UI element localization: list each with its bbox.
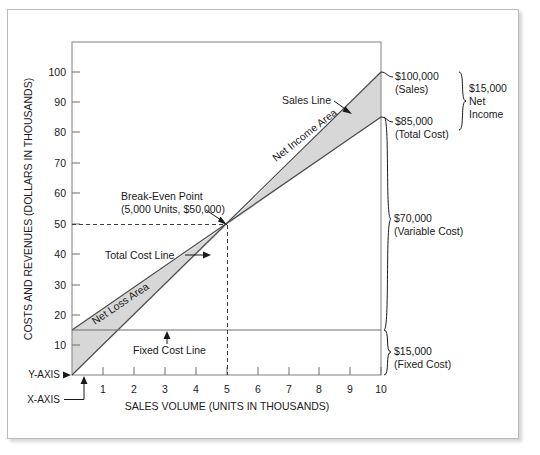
variable-cost-caption: (Variable Cost) — [394, 225, 463, 237]
sales-value-caption: (Sales) — [395, 83, 428, 95]
x-tick-label-9: 9 — [347, 383, 353, 395]
fixed-cost-line-arrowhead — [164, 331, 171, 339]
x-tick-label-3: 3 — [162, 383, 168, 395]
y-axis-callout-arrow — [63, 372, 71, 379]
y-tick-label-100: 100 — [48, 66, 66, 78]
sales-line-label: Sales Line — [282, 94, 331, 106]
x-axis-title: SALES VOLUME (UNITS IN THOUSANDS) — [125, 400, 330, 412]
break-even-label-line2: (5,000 Units, $50,000) — [121, 203, 225, 215]
x-tick-label-6: 6 — [255, 383, 261, 395]
y-tick-label-60: 60 — [54, 187, 66, 199]
figure-card: 100 90 80 70 60 50 40 30 20 10 1 2 3 4 5… — [7, 9, 519, 439]
fixed-cost-caption: (Fixed Cost) — [394, 358, 451, 370]
total-cost-value-pointer — [381, 117, 393, 122]
x-tick-label-2: 2 — [131, 383, 137, 395]
x-tick-label-5: 5 — [224, 383, 230, 395]
break-even-label-line1: Break-Even Point — [121, 190, 203, 202]
x-axis-callout-leader — [64, 384, 84, 400]
fixed-cost-value-label: $15,000 — [394, 345, 432, 357]
y-tick-label-50: 50 — [54, 218, 66, 230]
net-income-caption-line1: Net — [469, 95, 485, 107]
x-tick-label-4: 4 — [193, 383, 199, 395]
x-axis-ticks — [103, 367, 381, 375]
x-axis-callout-label: X-AXIS — [27, 394, 60, 405]
break-even-chart: 100 90 80 70 60 50 40 30 20 10 1 2 3 4 5… — [8, 10, 520, 440]
x-tick-label-1: 1 — [100, 383, 106, 395]
variable-cost-value-label: $70,000 — [394, 212, 432, 224]
x-tick-label-8: 8 — [316, 383, 322, 395]
y-tick-label-10: 10 — [54, 339, 66, 351]
fixed-cost-brace — [384, 330, 391, 375]
y-tick-label-40: 40 — [54, 248, 66, 260]
y-axis-ticks — [72, 72, 80, 345]
variable-cost-brace — [384, 117, 391, 330]
y-tick-label-70: 70 — [54, 157, 66, 169]
y-axis-title: COSTS AND REVENUES (DOLLARS IN THOUSANDS… — [22, 78, 34, 340]
y-tick-label-80: 80 — [54, 126, 66, 138]
net-income-caption-line2: Income — [469, 108, 504, 120]
total-cost-value-label: $85,000 — [395, 115, 433, 127]
x-tick-label-7: 7 — [286, 383, 292, 395]
fixed-cost-line-label: Fixed Cost Line — [133, 344, 206, 356]
break-even-arrowhead — [218, 217, 227, 226]
sales-value-pointer — [381, 72, 393, 77]
y-tick-label-30: 30 — [54, 279, 66, 291]
x-tick-label-10: 10 — [375, 383, 387, 395]
net-income-value-label: $15,000 — [469, 82, 507, 94]
y-tick-label-20: 20 — [54, 309, 66, 321]
y-axis-callout-label: Y-AXIS — [28, 369, 60, 380]
sales-value-label: $100,000 — [395, 70, 439, 82]
total-cost-line-label: Total Cost Line — [105, 249, 175, 261]
net-income-brace — [459, 72, 466, 130]
y-tick-label-90: 90 — [54, 96, 66, 108]
x-axis-callout-arrow — [81, 376, 88, 384]
total-cost-line-arrowhead — [203, 252, 211, 259]
total-cost-value-caption: (Total Cost) — [395, 128, 449, 140]
